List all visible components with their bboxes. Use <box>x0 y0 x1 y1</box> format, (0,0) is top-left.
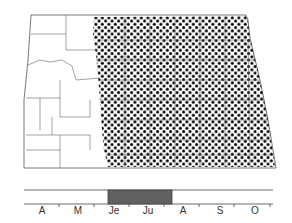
month-label: S <box>217 205 224 216</box>
month-label: O <box>251 205 259 216</box>
flight-period-bar <box>108 190 172 204</box>
month-label: Je <box>109 205 120 216</box>
month-label: A <box>180 205 187 216</box>
distribution-area <box>93 16 275 167</box>
month-label: M <box>74 205 82 216</box>
month-label: Ju <box>143 205 154 216</box>
range-map <box>0 0 292 223</box>
month-label: A <box>39 205 46 216</box>
